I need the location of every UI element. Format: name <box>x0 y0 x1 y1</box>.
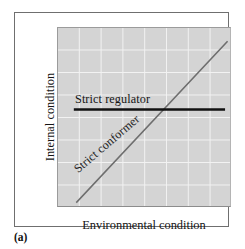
y-axis-title: Internal condition <box>37 27 63 207</box>
strict-regulator-label: Strict regulator <box>75 92 150 107</box>
figure-frame: Strict regulator Strict conformer Intern… <box>14 12 229 227</box>
strict-conformer-line <box>77 42 227 202</box>
series-layer <box>58 28 230 206</box>
x-axis-title: Environmental condition <box>57 218 231 233</box>
plot-area <box>57 27 231 207</box>
panel-caption: (a) <box>14 231 27 243</box>
